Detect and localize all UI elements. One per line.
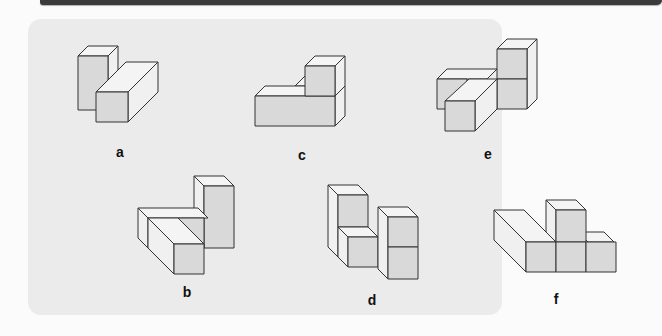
figure-c — [255, 54, 355, 130]
top-bar — [40, 0, 662, 5]
figure-d — [328, 185, 428, 285]
figure-a-label: a — [110, 144, 130, 160]
figure-b-label: b — [177, 284, 197, 300]
figure-e-label: e — [478, 146, 498, 162]
figure-c-label: c — [292, 147, 312, 163]
figure-b — [138, 176, 238, 276]
figure-d-label: d — [362, 292, 382, 308]
figure-f — [494, 200, 624, 276]
figure-f-label: f — [546, 291, 566, 307]
figure-a — [78, 44, 168, 120]
figure-e — [437, 39, 537, 139]
